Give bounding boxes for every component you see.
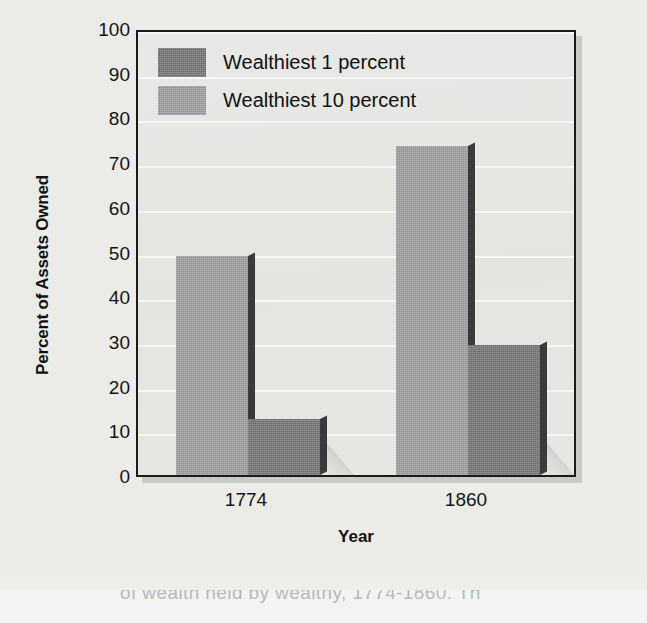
y-axis-tick-0: 0 (78, 466, 130, 488)
legend-item-wealthiest-10-percent: Wealthiest 10 percent (158, 86, 416, 115)
bar-face (396, 146, 468, 475)
bar-face (248, 419, 320, 475)
y-axis-tick-30: 30 (78, 332, 130, 354)
bar-1860-wealthiest-10-percent (396, 146, 468, 475)
x-axis-title: Year (136, 527, 576, 547)
bar-face (176, 256, 248, 475)
y-axis-title: Percent of Assets Owned (33, 125, 53, 425)
bar-face (468, 345, 540, 475)
y-axis-tick-90: 90 (78, 64, 130, 86)
chart-legend: Wealthiest 1 percent Wealthiest 10 perce… (158, 48, 416, 124)
plot-area: Wealthiest 1 percent Wealthiest 10 perce… (136, 30, 576, 477)
bar-1774-wealthiest-1-percent (248, 419, 320, 475)
y-axis-tick-60: 60 (78, 198, 130, 220)
x-axis-tick-1774: 1774 (186, 489, 306, 511)
x-axis-tick-labels: 17741860 (136, 489, 576, 517)
legend-label-series-2: Wealthiest 10 percent (223, 89, 416, 112)
bar-3d-edge (320, 416, 327, 475)
bar-3d-edge (540, 342, 547, 475)
chart-figure: Percent of Assets Owned 0102030405060708… (0, 0, 647, 578)
figure-caption-cutoff: of wealth held by wealthy, 1774-1860. Th (0, 590, 647, 623)
y-axis-tick-80: 80 (78, 108, 130, 130)
legend-item-wealthiest-1-percent: Wealthiest 1 percent (158, 48, 416, 77)
x-axis-tick-1860: 1860 (406, 489, 526, 511)
y-axis-tick-50: 50 (78, 243, 130, 265)
caption-partial-text: of wealth held by wealthy, 1774-1860. Th (120, 590, 481, 604)
y-axis-tick-70: 70 (78, 153, 130, 175)
y-axis-tick-labels: 0102030405060708090100 (78, 30, 130, 477)
gridline-60 (138, 211, 574, 213)
gridline-70 (138, 166, 574, 168)
bar-1774-wealthiest-10-percent (176, 256, 248, 475)
legend-label-series-1: Wealthiest 1 percent (223, 51, 405, 74)
gridline-100 (138, 32, 574, 34)
legend-swatch-icon-series-2 (158, 86, 206, 115)
y-axis-tick-100: 100 (78, 19, 130, 41)
y-axis-tick-20: 20 (78, 377, 130, 399)
y-axis-tick-10: 10 (78, 421, 130, 443)
y-axis-tick-40: 40 (78, 287, 130, 309)
bar-1860-wealthiest-1-percent (468, 345, 540, 475)
legend-swatch-icon-series-1 (158, 48, 206, 77)
